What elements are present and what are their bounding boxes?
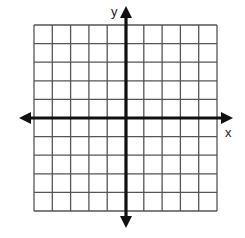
y-axis-label: y <box>111 5 118 18</box>
axes <box>19 6 233 228</box>
y-axis-down-arrow-icon <box>120 216 132 228</box>
x-axis-label: x <box>225 126 232 139</box>
y-axis-up-arrow-icon <box>120 6 132 18</box>
x-axis-left-arrow-icon <box>19 112 31 124</box>
x-axis-right-arrow-icon <box>221 112 233 124</box>
coordinate-plane <box>0 0 245 238</box>
